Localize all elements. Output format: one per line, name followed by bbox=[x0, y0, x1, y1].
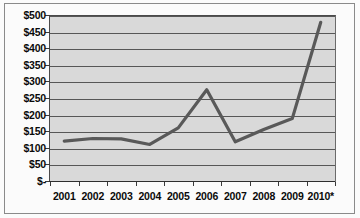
y-axis-label: $350 bbox=[2, 60, 46, 70]
x-axis-label: 2006 bbox=[195, 190, 218, 202]
y-axis-label: $300 bbox=[2, 76, 46, 86]
gridline bbox=[50, 149, 335, 150]
x-axis-label: 2009 bbox=[281, 190, 304, 202]
x-axis-tick bbox=[107, 182, 108, 186]
x-axis-label: 2004 bbox=[138, 190, 161, 202]
x-axis-tick bbox=[335, 182, 336, 186]
gridline bbox=[50, 66, 335, 67]
y-axis-label: $150 bbox=[2, 126, 46, 136]
gridline bbox=[50, 99, 335, 100]
y-axis-labels-group: $-$50$100$150$200$250$300$350$400$450$50… bbox=[0, 0, 46, 218]
chart-figure: $-$50$100$150$200$250$300$350$400$450$50… bbox=[0, 0, 360, 218]
gridline bbox=[50, 116, 335, 117]
y-axis-label: $200 bbox=[2, 110, 46, 120]
gridline bbox=[50, 82, 335, 83]
x-axis-label: 2008 bbox=[252, 190, 275, 202]
x-axis-tick bbox=[136, 182, 137, 186]
x-axis-tick bbox=[164, 182, 165, 186]
y-axis-label: $50 bbox=[2, 159, 46, 169]
x-axis-label: 2005 bbox=[167, 190, 190, 202]
gridline bbox=[50, 16, 335, 17]
x-axis-tick bbox=[79, 182, 80, 186]
x-axis-tick bbox=[307, 182, 308, 186]
y-axis-label: $400 bbox=[2, 43, 46, 53]
x-axis-tick bbox=[221, 182, 222, 186]
y-axis-label: $100 bbox=[2, 143, 46, 153]
y-axis-label: $500 bbox=[2, 10, 46, 20]
x-axis-label: 2002 bbox=[81, 190, 104, 202]
x-axis-tick bbox=[193, 182, 194, 186]
x-axis-tick bbox=[278, 182, 279, 186]
x-axis-label: 2003 bbox=[110, 190, 133, 202]
y-axis-label: $250 bbox=[2, 93, 46, 103]
gridline bbox=[50, 33, 335, 34]
plot-area bbox=[49, 15, 336, 182]
gridline bbox=[50, 165, 335, 166]
y-axis-label: $450 bbox=[2, 27, 46, 37]
y-axis-label: $- bbox=[2, 176, 46, 186]
gridline bbox=[50, 49, 335, 50]
x-axis-label: 2007 bbox=[224, 190, 247, 202]
x-axis-tick bbox=[250, 182, 251, 186]
gridline bbox=[50, 132, 335, 133]
x-axis-label: 2010* bbox=[308, 190, 334, 202]
chart-plot-region: $-$50$100$150$200$250$300$350$400$450$50… bbox=[0, 0, 360, 218]
x-axis-label: 2001 bbox=[53, 190, 76, 202]
x-axis-tick bbox=[50, 182, 51, 186]
